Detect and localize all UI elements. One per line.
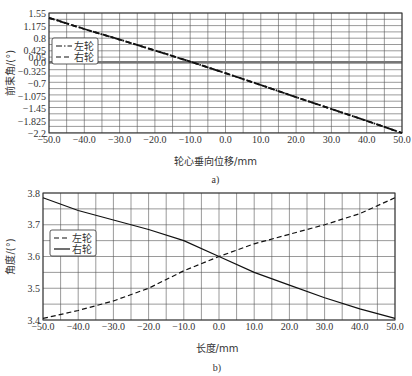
y-tick-label: −1.825 (18, 116, 46, 127)
x-tick-label: 20.0 (287, 134, 305, 145)
y-tick-label: −0.7 (28, 78, 46, 89)
legend-label: 右轮 (74, 51, 94, 63)
y-tick-label: 3.8 (28, 188, 41, 199)
y-tick-label: −1.075 (18, 91, 46, 102)
x-tick-label: −40.0 (73, 134, 96, 145)
legend: 左轮右轮 (50, 230, 96, 256)
y-tick-label: 3.6 (28, 251, 41, 262)
x-tick-label: 50.0 (393, 134, 411, 145)
y-axis-label: 前束角/(°) (4, 50, 16, 96)
x-tick-label: −30.0 (108, 134, 131, 145)
y-tick-label: 3.7 (28, 219, 41, 230)
x-tick-label: −10.0 (179, 134, 202, 145)
x-tick-label: 30.0 (323, 134, 341, 145)
x-tick-label: −50.0 (37, 134, 60, 145)
chart-figure: 1.551.1750.80.4250.050.0−0.325−0.7−1.075… (0, 0, 412, 376)
chart-caption: b) (213, 362, 221, 374)
legend-label: 左轮 (72, 232, 92, 244)
y-tick-label: 3.5 (28, 283, 41, 294)
y-tick-label: −0.325 (18, 66, 46, 77)
x-tick-label: 0.0 (219, 134, 232, 145)
x-tick-label: 40.0 (358, 134, 376, 145)
x-tick-label: −30.0 (102, 321, 125, 332)
y-tick-label: 1.55 (29, 8, 47, 19)
x-axis-label: 轮心垂向位移/mm (174, 155, 257, 167)
x-tick-label: 0.0 (213, 321, 226, 332)
y-tick-label: −1.45 (23, 103, 46, 114)
x-tick-label: 10.0 (252, 134, 270, 145)
legend-label: 右轮 (72, 243, 92, 255)
x-tick-label: −20.0 (143, 134, 166, 145)
x-tick-label: −40.0 (67, 321, 90, 332)
x-tick-label: 10.0 (245, 321, 263, 332)
y-tick-label: 1.175 (24, 21, 47, 32)
y-axis-label: 角度/(°) (4, 238, 16, 274)
chart-caption: a) (212, 174, 220, 186)
legend-label: 左轮 (74, 40, 94, 52)
x-tick-label: 40.0 (351, 321, 369, 332)
y-tick-label: 0.8 (34, 33, 47, 44)
x-tick-label: 20.0 (281, 321, 299, 332)
x-axis-label: 长度/mm (196, 342, 239, 354)
chart-a-toe-angle: 1.551.1750.80.4250.050.0−0.325−0.7−1.075… (4, 8, 411, 187)
x-tick-label: −10.0 (172, 321, 195, 332)
x-tick-label: −20.0 (137, 321, 160, 332)
legend: 左轮右轮 (52, 38, 98, 64)
x-tick-label: −50.0 (31, 321, 54, 332)
chart-b-angle-vs-length: 3.83.73.63.53.4−50.0−40.0−30.0−20.0−10.0… (4, 188, 404, 375)
x-tick-label: 50.0 (386, 321, 404, 332)
x-tick-label: 30.0 (316, 321, 334, 332)
